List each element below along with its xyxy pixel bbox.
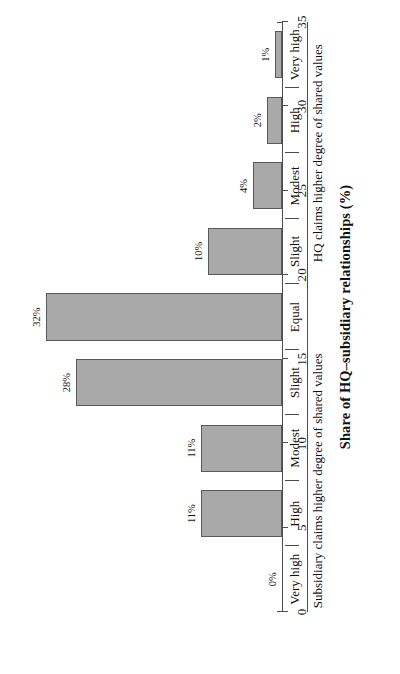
bar[interactable] [275,31,282,78]
bar-value-label: 32% [31,307,42,326]
bar-value-label: 11% [186,439,197,458]
bar-slot: 0% [24,546,282,612]
category-separator [285,152,299,153]
value-tick [282,274,288,275]
bar-value-label: 0% [267,572,278,586]
category-separator [285,349,299,350]
bar-slot: 11% [24,481,282,547]
bar[interactable] [267,97,282,144]
value-axis [282,22,283,612]
category-separator [285,283,299,284]
bar-chart: Share of HQ–subsidiary relationships (%)… [0,0,400,674]
group-band [307,22,308,284]
group-label: Subsidiary claims higher degree of share… [310,350,326,612]
bar-slot: 11% [24,415,282,481]
value-tick-label: 35 [294,15,310,28]
value-tick [282,611,288,612]
value-tick [282,105,288,106]
value-tick-label: 15 [294,352,310,365]
bar-value-label: 10% [193,242,204,261]
bar-slot: 1% [24,22,282,88]
category-label: Slight [287,236,303,267]
bar-value-label: 2% [252,113,263,127]
category-label: Slight [287,367,303,398]
plot-area: 0%11%11%28%32%10%4%2%1% 05101520253035 [24,22,282,612]
category-label: Equal [287,302,303,332]
bar-slot: 28% [24,350,282,416]
category-label: Very high [287,29,303,80]
category-separator [285,545,299,546]
value-tick-label: 25 [294,184,310,197]
bar-value-label: 11% [186,504,197,523]
category-label: Very high [287,554,303,605]
value-tick [282,190,288,191]
group-band [307,350,308,612]
value-tick-label: 20 [294,268,310,281]
category-separator [285,414,299,415]
bar-slot: 32% [24,284,282,350]
value-tick-label: 5 [294,524,310,531]
category-label: High [287,501,303,527]
value-axis-title: Share of HQ–subsidiary relationships (%) [337,22,354,612]
category-separator [285,218,299,219]
bar-value-label: 4% [238,179,249,193]
rotated-chart-stage: Share of HQ–subsidiary relationships (%)… [0,0,400,674]
bar[interactable] [201,425,282,472]
bar-slot: 2% [24,88,282,154]
bar-slot: 10% [24,219,282,285]
bar-value-label: 1% [260,48,271,62]
category-separator [285,480,299,481]
bar[interactable] [253,162,282,209]
value-tick-label: 0 [294,609,310,616]
value-tick [282,358,288,359]
bar[interactable] [201,490,282,537]
value-tick [282,442,288,443]
bar-value-label: 28% [61,373,72,392]
value-tick [282,21,288,22]
value-tick-label: 30 [294,100,310,113]
value-tick-label: 10 [294,437,310,450]
group-band [307,284,308,350]
category-separator [285,87,299,88]
bar[interactable] [208,228,282,275]
bar-slot: 4% [24,153,282,219]
bars-layer: 0%11%11%28%32%10%4%2%1% [24,22,282,612]
value-axis-cap-end [277,22,283,23]
bar[interactable] [46,293,282,340]
bar[interactable] [76,359,282,406]
group-label: HQ claims higher degree of shared values [310,22,326,284]
value-tick [282,527,288,528]
